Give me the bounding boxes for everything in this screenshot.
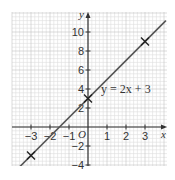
y-axis-label: y [78, 8, 84, 20]
x-tick-label: 1 [104, 130, 110, 142]
origin-label: O [78, 128, 86, 140]
equation-label: y = 2x + 3 [101, 82, 151, 96]
x-axis-label: x [160, 128, 166, 140]
y-tick-label: 4 [78, 83, 84, 95]
y-tick-label: −2 [71, 140, 84, 152]
y-tick-label: 6 [78, 64, 84, 76]
x-tick-label: 2 [123, 130, 129, 142]
y-tick-label: 10 [72, 26, 84, 38]
x-tick-label: −3 [25, 130, 38, 142]
line-chart: x y −3−2−1123 −4−2246810 O y = 2x + 3 [0, 0, 175, 180]
y-tick-label: −4 [71, 159, 84, 171]
y-tick-label: 8 [78, 45, 84, 57]
x-tick-label: 3 [142, 130, 148, 142]
